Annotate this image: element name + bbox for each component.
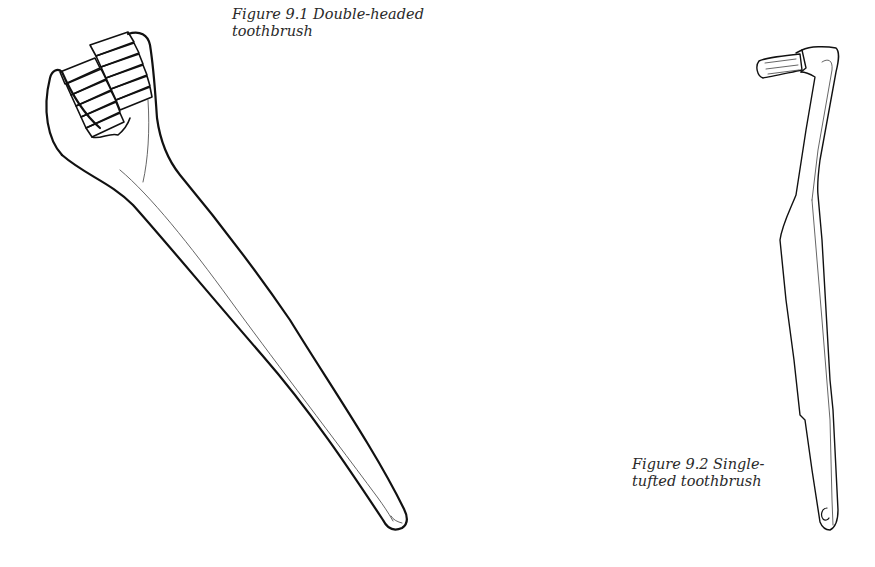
single-tuft-handle (780, 47, 839, 530)
single-tuft-head (757, 50, 806, 78)
document-page: Figure 9.1 Double-headed toothbrush Figu… (0, 0, 875, 567)
caption-line: toothbrush (232, 23, 424, 40)
figure-9-2-caption: Figure 9.2 Single- tufted toothbrush (632, 456, 758, 490)
caption-line: Figure 9.2 Single- (632, 456, 758, 473)
figure-9-1-caption: Figure 9.1 Double-headed toothbrush (232, 6, 424, 40)
caption-line: Figure 9.1 Double-headed (232, 6, 424, 23)
caption-line: tufted toothbrush (632, 473, 758, 490)
